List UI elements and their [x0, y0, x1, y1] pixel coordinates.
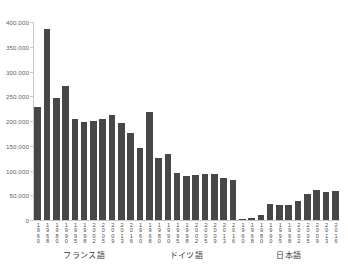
x-tick-slot: 2013	[117, 222, 126, 248]
bar[interactable]	[99, 119, 106, 220]
bar[interactable]	[62, 86, 69, 220]
bar[interactable]	[258, 215, 265, 220]
bar-slot	[210, 22, 219, 220]
bar-slot	[266, 22, 275, 220]
x-axis-tick-label: 2009	[109, 222, 114, 248]
x-axis-tick-label: 2013	[323, 222, 328, 248]
bar[interactable]	[183, 176, 190, 220]
x-tick-slot: 1990	[266, 222, 275, 248]
x-tick-slot: 1960	[238, 222, 247, 248]
x-tick-slot: 2002	[191, 222, 200, 248]
y-axis-tick-label: 200,000	[6, 118, 33, 125]
bar[interactable]	[202, 174, 209, 220]
x-axis-tick-label: 1990	[165, 222, 170, 248]
bar[interactable]	[137, 148, 144, 220]
bar[interactable]	[313, 190, 320, 220]
bar[interactable]	[155, 158, 162, 220]
bar[interactable]	[276, 205, 283, 220]
group-captions: フランス語ドイツ語日本語	[33, 249, 340, 263]
x-axis-tick-label: 2016	[128, 222, 133, 248]
bar-slot	[331, 22, 340, 220]
x-tick-slot: 1995	[173, 222, 182, 248]
bar[interactable]	[239, 219, 246, 220]
bar[interactable]	[304, 194, 311, 220]
x-axis-tick-label: 2009	[212, 222, 217, 248]
x-axis-tick-label: 2013	[221, 222, 226, 248]
x-axis-tick-label: 2016	[333, 222, 338, 248]
x-axis-tick-labels: 1960196819801990199519982002200520092013…	[33, 222, 340, 248]
x-tick-slot: 2016	[126, 222, 135, 248]
bar[interactable]	[44, 29, 51, 220]
x-tick-slot: 1960	[135, 222, 144, 248]
bar[interactable]	[174, 173, 181, 220]
bar-slot	[126, 22, 135, 220]
x-tick-slot: 1960	[33, 222, 42, 248]
bar[interactable]	[248, 218, 255, 220]
y-axis-tick-label: 100,000	[6, 167, 33, 174]
x-tick-slot: 1998	[79, 222, 88, 248]
bar[interactable]	[211, 174, 218, 220]
x-tick-slot: 1995	[70, 222, 79, 248]
x-tick-slot: 1968	[145, 222, 154, 248]
bar-slot	[79, 22, 88, 220]
bar[interactable]	[127, 133, 134, 220]
bar[interactable]	[34, 107, 41, 220]
x-axis-tick-label: 1995	[72, 222, 77, 248]
bar[interactable]	[81, 122, 88, 220]
bar[interactable]	[90, 121, 97, 220]
x-axis-tick-label: 1990	[63, 222, 68, 248]
x-axis-tick-label: 2005	[100, 222, 105, 248]
x-axis-tick-label: 1968	[147, 222, 152, 248]
y-axis-tick-label: 150,000	[6, 142, 33, 149]
bar[interactable]	[118, 123, 125, 221]
bar-slot	[42, 22, 51, 220]
x-tick-slot: 1980	[256, 222, 265, 248]
bar-slot	[33, 22, 42, 220]
x-tick-slot: 2009	[210, 222, 219, 248]
x-tick-slot: 2005	[200, 222, 209, 248]
bar-slot	[275, 22, 284, 220]
y-axis-tick-label: 400,000	[6, 19, 33, 26]
x-axis-tick-label: 2002	[193, 222, 198, 248]
bar[interactable]	[109, 115, 116, 220]
bar[interactable]	[332, 191, 339, 220]
bar[interactable]	[53, 98, 60, 220]
x-axis-tick-label: 1968	[249, 222, 254, 248]
bar[interactable]	[72, 119, 79, 220]
y-axis-tick-label: 300,000	[6, 68, 33, 75]
x-tick-slot: 1990	[61, 222, 70, 248]
bar[interactable]	[323, 192, 330, 220]
bar[interactable]	[165, 154, 172, 220]
group-caption: 日本語	[238, 249, 340, 263]
y-axis-tick-label: 250,000	[6, 93, 33, 100]
x-axis-tick-label: 1998	[184, 222, 189, 248]
bar[interactable]	[220, 178, 227, 220]
bar-slot	[117, 22, 126, 220]
bar-slot	[52, 22, 61, 220]
bar-groups	[33, 22, 340, 220]
x-tick-slot: 2013	[321, 222, 330, 248]
bar[interactable]	[267, 204, 274, 220]
bar[interactable]	[295, 201, 302, 220]
x-tick-slot: 2016	[228, 222, 237, 248]
x-axis-tick-label: 1995	[277, 222, 282, 248]
bar-slot	[61, 22, 70, 220]
bar-slot	[247, 22, 256, 220]
bar[interactable]	[285, 205, 292, 220]
bar[interactable]	[146, 112, 153, 220]
x-tick-slot: 2009	[312, 222, 321, 248]
x-tick-slot: 1980	[52, 222, 61, 248]
bar[interactable]	[230, 180, 237, 220]
x-axis-group-labels: 1960196819801990199519982002200520092013…	[33, 222, 135, 248]
x-tick-slot: 1980	[154, 222, 163, 248]
bar[interactable]	[192, 175, 199, 220]
bar-slot	[107, 22, 116, 220]
x-tick-slot: 1968	[42, 222, 51, 248]
x-axis-tick-label: 1980	[156, 222, 161, 248]
x-axis-tick-label: 1998	[81, 222, 86, 248]
x-axis-tick-label: 1980	[54, 222, 59, 248]
bar-group	[135, 22, 237, 220]
x-axis-tick-label: 2009	[314, 222, 319, 248]
x-axis-tick-label: 1960	[137, 222, 142, 248]
bar-slot	[70, 22, 79, 220]
